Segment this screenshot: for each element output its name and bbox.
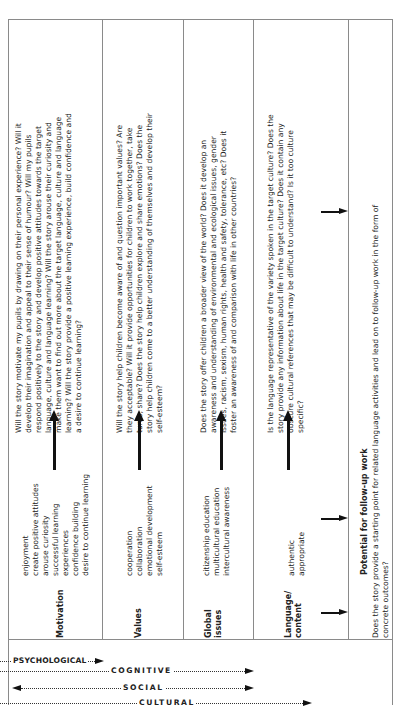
language-content-question: Is the language representative of the va… — [266, 38, 306, 433]
global-issues-items: citizenship education multicultural educ… — [202, 436, 232, 576]
column-language-content: Is the language representative of the va… — [254, 20, 349, 639]
motivation-question: Will the story motivate my pupils by dra… — [14, 38, 84, 433]
arrow-right-icon — [321, 211, 340, 213]
arrow-right-icon — [321, 518, 340, 520]
story-evaluation-table: Will the story motivate my pupils by dra… — [8, 19, 393, 640]
follow-up-question: Does the story provide a starting point … — [371, 118, 391, 638]
dimension-psychological: PSYCHOLOGICAL — [0, 656, 110, 666]
arrow-right-icon — [95, 658, 104, 664]
frame-border-right — [392, 640, 393, 705]
column-follow-up: Potential for follow-up work Does the st… — [349, 20, 393, 639]
motivation-items: enjoyment create positive attitudes arou… — [21, 436, 91, 576]
arrow-right-icon — [321, 612, 340, 614]
values-question: Will the story help children become awar… — [115, 38, 165, 433]
values-items: cooperation collaboration emotional deve… — [125, 436, 165, 576]
follow-up-title: Potential for follow-up work — [360, 375, 370, 575]
arrow-right-icon — [303, 700, 312, 706]
dimension-arrows: PSYCHOLOGICAL COGNITIVE SOCIAL CULTURAL — [0, 640, 398, 705]
global-issues-question: Does the story offer children a broader … — [199, 38, 239, 433]
dimension-social: SOCIAL — [0, 683, 260, 693]
arrow-left-icon — [12, 685, 21, 691]
arrow-right-icon — [245, 685, 254, 691]
arrow-right-icon — [245, 668, 254, 674]
column-motivation: Will the story motivate my pupils by dra… — [9, 20, 103, 639]
column-global-issues: Does the story offer children a broader … — [184, 20, 254, 639]
dimension-cultural: CULTURAL — [0, 698, 320, 708]
language-content-items: authentic appropriate — [287, 476, 307, 576]
arrow-up-icon — [287, 420, 290, 470]
dimension-cognitive: COGNITIVE — [0, 666, 260, 676]
column-values: Will the story help children become awar… — [103, 20, 184, 639]
